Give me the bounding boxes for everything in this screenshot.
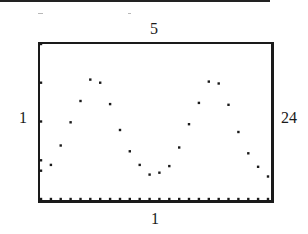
data-point (60, 144, 62, 146)
data-point (227, 104, 229, 106)
data-point (188, 123, 190, 125)
data-point (40, 170, 42, 172)
x-tick-mark (69, 198, 71, 200)
data-point (89, 78, 91, 80)
data-point (168, 165, 170, 167)
x-tick-mark (89, 198, 91, 200)
data-point (208, 80, 210, 82)
data-point (237, 131, 239, 133)
x-tick-mark (188, 198, 190, 200)
x-tick-mark (208, 198, 210, 200)
x-tick-mark (148, 198, 150, 200)
data-point (79, 100, 81, 102)
y-tick-mark (40, 43, 42, 45)
x-tick-mark (257, 198, 259, 200)
x-tick-mark (79, 198, 81, 200)
x-tick-mark (267, 198, 269, 200)
x-tick-mark (40, 198, 42, 200)
data-point (257, 166, 259, 168)
x-tick-mark (119, 198, 121, 200)
data-point (267, 175, 269, 177)
x-tick-mark (129, 198, 131, 200)
x-tick-mark (237, 198, 239, 200)
data-point (119, 129, 121, 131)
y-tick-mark (40, 159, 42, 161)
data-point (50, 164, 52, 166)
scatter-plot (0, 0, 308, 234)
x-tick-mark (50, 198, 52, 200)
x-tick-mark (60, 198, 62, 200)
x-tick-mark (168, 198, 170, 200)
data-point (148, 173, 150, 175)
x-tick-mark (198, 198, 200, 200)
data-point (158, 172, 160, 174)
data-point (129, 150, 131, 152)
y-tick-mark (40, 82, 42, 84)
data-point (198, 102, 200, 104)
data-point (247, 152, 249, 154)
data-point (139, 164, 141, 166)
data-point (178, 146, 180, 148)
x-tick-mark (109, 198, 111, 200)
x-tick-mark (247, 198, 249, 200)
x-tick-mark (139, 198, 141, 200)
y-tick-mark (40, 120, 42, 122)
x-tick-mark (227, 198, 229, 200)
x-tick-mark (178, 198, 180, 200)
x-tick-mark (99, 198, 101, 200)
data-point (218, 82, 220, 84)
data-point (109, 103, 111, 105)
data-point (99, 82, 101, 84)
x-tick-mark (218, 198, 220, 200)
x-tick-mark (158, 198, 160, 200)
data-point (69, 121, 71, 123)
